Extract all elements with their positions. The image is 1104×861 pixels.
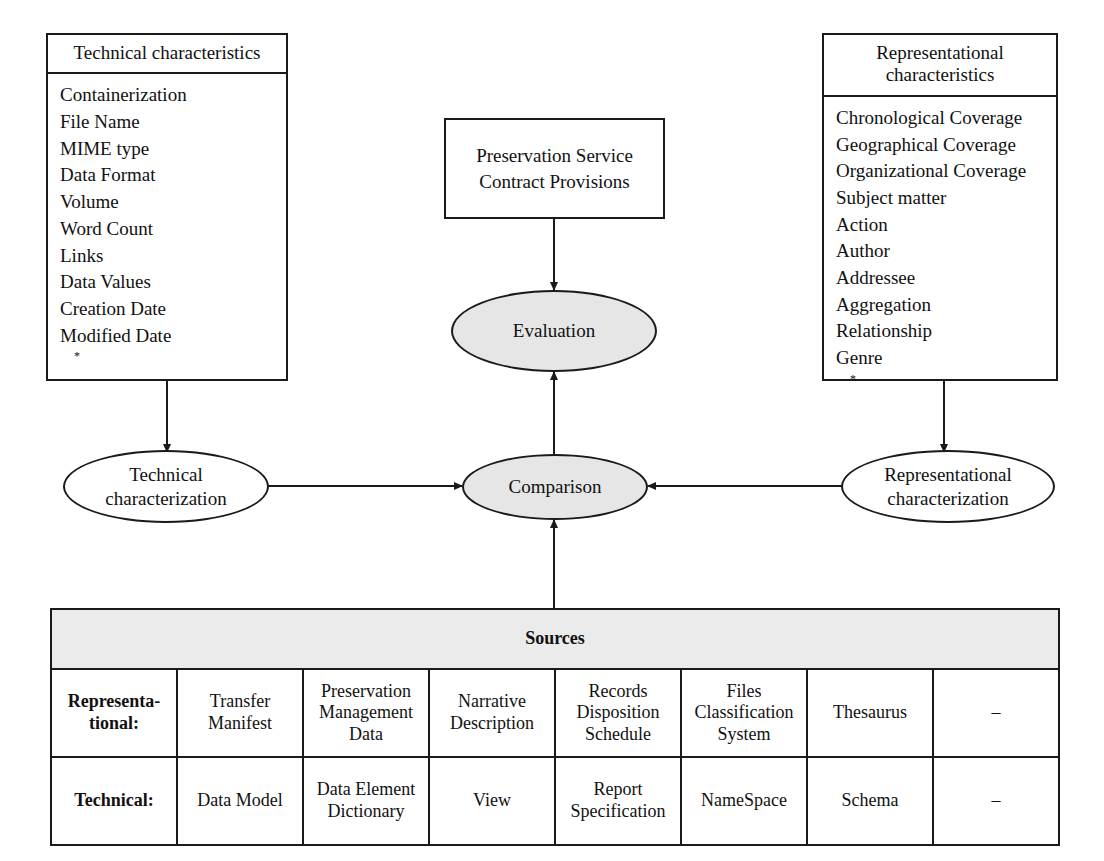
continuation-marker: *: [836, 372, 1056, 386]
contract-line-2: Contract Provisions: [476, 169, 633, 195]
list-item: Action: [836, 212, 1056, 239]
representational-characterization-line-1: Representational: [884, 463, 1012, 486]
list-item: Modified Date: [60, 323, 286, 350]
preservation-service-contract-provisions-box: Preservation Service Contract Provisions: [444, 118, 665, 219]
row-label-representational: Representa- tional:: [51, 669, 177, 757]
table-cell: View: [429, 757, 555, 845]
list-item: Data Values: [60, 269, 286, 296]
list-item: Creation Date: [60, 296, 286, 323]
representational-characterization-ellipse: Representational characterization: [841, 450, 1055, 523]
technical-characterization-ellipse: Technical characterization: [63, 450, 269, 523]
representational-characteristics-header: Representational characteristics: [824, 35, 1056, 97]
list-item: Author: [836, 238, 1056, 265]
list-item: Geographical Coverage: [836, 132, 1056, 159]
row-label-line-1: Technical:: [55, 790, 173, 812]
table-cell: FilesClassificationSystem: [681, 669, 807, 757]
list-item: MIME type: [60, 136, 286, 163]
table-cell: Data ElementDictionary: [303, 757, 429, 845]
table-cell: Schema: [807, 757, 933, 845]
table-header-row: Sources: [51, 609, 1059, 669]
technical-characteristics-box: Technical characteristics Containerizati…: [46, 33, 288, 381]
list-item: Addressee: [836, 265, 1056, 292]
list-item: Word Count: [60, 216, 286, 243]
list-item: File Name: [60, 109, 286, 136]
row-label-line-2: tional:: [55, 713, 173, 735]
technical-characterization-line-2: characterization: [105, 487, 226, 510]
technical-characteristics-header: Technical characteristics: [48, 35, 286, 74]
list-item: Data Format: [60, 162, 286, 189]
list-item: Subject matter: [836, 185, 1056, 212]
contract-line-1: Preservation Service: [476, 143, 633, 169]
list-item: Volume: [60, 189, 286, 216]
list-item: Links: [60, 243, 286, 270]
table-cell: –: [933, 669, 1059, 757]
list-item: Containerization: [60, 82, 286, 109]
table-cell: PreservationManagementData: [303, 669, 429, 757]
row-label-technical: Technical:: [51, 757, 177, 845]
table-row-technical: Technical: Data Model Data ElementDictio…: [51, 757, 1059, 845]
table-cell: Data Model: [177, 757, 303, 845]
table-row-representational: Representa- tional: TransferManifest Pre…: [51, 669, 1059, 757]
list-item: Genre: [836, 345, 1056, 372]
technical-characterization-line-1: Technical: [105, 463, 226, 486]
table-cell: ReportSpecification: [555, 757, 681, 845]
table-cell: NarrativeDescription: [429, 669, 555, 757]
header-line-1: Representational: [830, 42, 1050, 64]
comparison-label: Comparison: [509, 475, 602, 498]
table-cell: RecordsDispositionSchedule: [555, 669, 681, 757]
table-cell: Thesaurus: [807, 669, 933, 757]
header-line-2: characteristics: [830, 64, 1050, 86]
diagram-canvas: Technical characteristics Containerizati…: [0, 0, 1104, 861]
representational-characteristics-box: Representational characteristics Chronol…: [822, 33, 1058, 381]
sources-title: Sources: [51, 609, 1059, 669]
representational-characterization-line-2: characterization: [884, 487, 1012, 510]
sources-table: Sources Representa- tional: TransferMani…: [50, 608, 1060, 846]
representational-characteristics-list: Chronological Coverage Geographical Cove…: [824, 97, 1056, 386]
evaluation-ellipse: Evaluation: [451, 290, 657, 372]
list-item: Organizational Coverage: [836, 158, 1056, 185]
list-item: Aggregation: [836, 292, 1056, 319]
technical-characteristics-list: Containerization File Name MIME type Dat…: [48, 74, 286, 363]
table-cell: TransferManifest: [177, 669, 303, 757]
row-label-line-1: Representa-: [55, 691, 173, 713]
list-item: Relationship: [836, 318, 1056, 345]
continuation-marker: *: [60, 349, 286, 363]
table-cell: –: [933, 757, 1059, 845]
comparison-ellipse: Comparison: [462, 454, 648, 520]
evaluation-label: Evaluation: [513, 319, 595, 342]
table-cell: NameSpace: [681, 757, 807, 845]
list-item: Chronological Coverage: [836, 105, 1056, 132]
